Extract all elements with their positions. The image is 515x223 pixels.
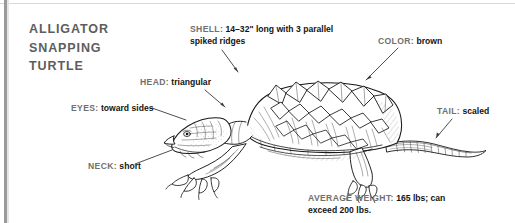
turtle-tail	[386, 141, 486, 157]
turtle-shell	[246, 81, 402, 155]
callout-eyes-value: toward sides	[101, 103, 154, 113]
callout-neck-key: NECK:	[88, 161, 117, 171]
callout-head-key: HEAD:	[140, 77, 169, 87]
turtle-body-group	[164, 81, 486, 203]
page-title-line-3: TURTLE	[29, 57, 149, 76]
callout-head-value: triangular	[171, 77, 211, 87]
page-title-line-1: ALLIGATOR	[29, 20, 149, 39]
callout-shell: SHELL: 14–32" long with 3 parallel spike…	[190, 24, 340, 47]
callout-neck: NECK: short	[88, 161, 141, 173]
page-title: ALLIGATOR SNAPPING TURTLE	[29, 20, 149, 76]
turtle-head	[164, 118, 231, 158]
infographic-page: ALLIGATOR SNAPPING TURTLE	[0, 0, 515, 223]
page-title-line-2: SNAPPING	[29, 39, 149, 58]
callout-neck-value: short	[119, 161, 140, 171]
callout-tail: TAIL: scaled	[437, 106, 489, 118]
callout-tail-value: scaled	[462, 106, 489, 116]
callout-color: COLOR: brown	[378, 36, 442, 48]
callout-tail-key: TAIL:	[437, 106, 460, 116]
callout-color-value: brown	[416, 36, 442, 46]
callout-color-key: COLOR:	[378, 36, 414, 46]
callout-eyes: EYES: toward sides	[71, 103, 153, 115]
callout-shell-key: SHELL:	[190, 24, 223, 34]
callout-eyes-key: EYES:	[71, 103, 99, 113]
callout-average-weight: AVERAGE WEIGHT: 165 lbs; can exceed 200 …	[308, 193, 468, 216]
callout-weight-key: AVERAGE WEIGHT:	[308, 193, 394, 203]
left-border-bar-inner	[7, 0, 9, 223]
callout-head: HEAD: triangular	[140, 77, 211, 89]
top-divider	[0, 3, 515, 4]
turtle-illustration	[150, 48, 500, 203]
